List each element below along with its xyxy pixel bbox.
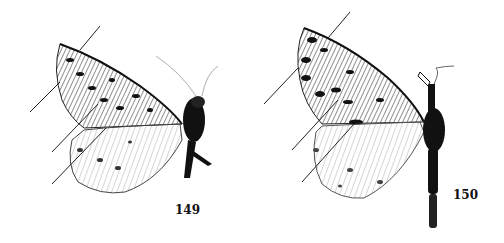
forewing-150 bbox=[298, 28, 424, 125]
hindwing-149 bbox=[70, 124, 182, 193]
body-149 bbox=[183, 96, 212, 178]
hindwing-150 bbox=[313, 122, 424, 198]
specimen-plate: 149 150 bbox=[0, 0, 504, 243]
body-150 bbox=[418, 72, 445, 228]
figure-number-150: 150 bbox=[453, 188, 478, 202]
moth-figure-149 bbox=[30, 26, 218, 193]
forewing-149 bbox=[56, 44, 182, 128]
figure-number-149: 149 bbox=[175, 203, 200, 217]
antennae-150 bbox=[434, 66, 454, 84]
antennae-149 bbox=[156, 56, 218, 96]
moth-figure-150 bbox=[264, 12, 454, 228]
plate-illustration bbox=[0, 0, 504, 243]
